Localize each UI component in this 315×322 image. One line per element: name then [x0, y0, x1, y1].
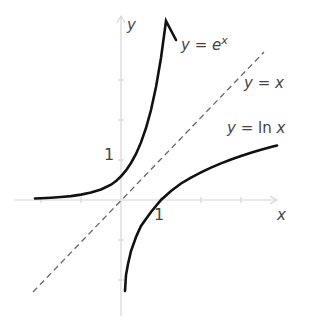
exp-label: y = ex [180, 34, 228, 54]
y-axis-label: y [126, 16, 137, 34]
identity-curve [33, 52, 264, 292]
y-tick-one-label: 1 [104, 145, 114, 164]
axes [14, 16, 277, 316]
x-tick-one-label: 1 [154, 205, 164, 224]
graph: y x 1 1 y = ex y = x y = ln x [0, 0, 315, 322]
ln-curve [125, 146, 277, 292]
identity-label: y = x [243, 74, 284, 92]
x-axis-label: x [276, 206, 286, 224]
ln-label: y = ln x [226, 119, 285, 137]
exp-curve [35, 21, 176, 199]
